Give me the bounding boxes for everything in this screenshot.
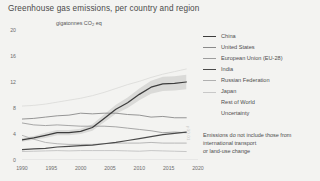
legend-item-label: India — [221, 67, 233, 73]
legend-item-rest-of-world[interactable]: Rest of World — [203, 98, 318, 109]
legend-item-china[interactable]: China — [203, 31, 318, 42]
legend-item-russian-federation[interactable]: Russian Federation — [203, 75, 318, 86]
legend: ChinaUnited StatesEuropean Union (EU-28)… — [203, 31, 318, 120]
legend-swatch-icon — [203, 58, 216, 59]
legend-item-label: Russian Federation — [221, 78, 270, 84]
y-axis-tick-8: 8 — [2, 105, 16, 111]
legend-swatch-icon — [203, 69, 216, 70]
x-axis-tick-2020: 2020 — [185, 165, 211, 171]
y-axis-tick-4: 4 — [2, 131, 16, 137]
x-axis-tick-1995: 1995 — [38, 165, 64, 171]
x-axis-tick-2000: 2000 — [68, 165, 94, 171]
legend-item-label: United States — [221, 45, 255, 51]
legend-swatch-icon — [203, 92, 216, 93]
y-axis-label-main: gigatonnes CO — [56, 20, 92, 26]
annotation-line: international transport — [203, 139, 319, 147]
chart-container: Greenhouse gas emissions, per country an… — [0, 0, 320, 181]
y-axis-tick-12: 12 — [2, 79, 16, 85]
legend-item-label: Rest of World — [221, 100, 255, 106]
legend-item-label: Uncertainty — [221, 111, 249, 117]
plot-area — [22, 30, 198, 160]
legend-swatch-icon — [203, 80, 216, 81]
legend-swatch-icon — [203, 47, 216, 48]
x-axis-tick-2005: 2005 — [97, 165, 123, 171]
legend-item-label: Japan — [221, 89, 236, 95]
x-axis-tick-2015: 2015 — [156, 165, 182, 171]
y-axis-tick-0: 0 — [2, 157, 16, 163]
annotation-line: or land-use change — [203, 147, 319, 155]
series-line-japan — [22, 151, 186, 152]
watermark-text: p30.01 — [186, 126, 191, 141]
legend-swatch-icon — [203, 36, 216, 37]
legend-item-india[interactable]: India — [203, 64, 318, 75]
legend-item-japan[interactable]: Japan — [203, 86, 318, 97]
legend-item-uncertainty[interactable]: Uncertainty — [203, 109, 318, 120]
plot-svg — [22, 30, 198, 160]
chart-title: Greenhouse gas emissions, per country an… — [8, 4, 199, 13]
x-axis-tick-1990: 1990 — [9, 165, 35, 171]
y-axis-label-subscript: 2 — [92, 22, 94, 27]
legend-item-united-states[interactable]: United States — [203, 42, 318, 53]
y-axis-label-tail: eq — [94, 20, 102, 26]
legend-item-label: China — [221, 34, 236, 40]
legend-item-european-union-eu-28[interactable]: European Union (EU-28) — [203, 53, 318, 64]
y-axis-tick-20: 20 — [2, 27, 16, 33]
y-axis-label: gigatonnes CO2 eq — [56, 20, 102, 26]
series-line-european-union-eu-28 — [22, 123, 186, 133]
annotation-line: Emissions do not include those from — [203, 131, 319, 139]
x-axis-tick-2010: 2010 — [126, 165, 152, 171]
y-axis-tick-16: 16 — [2, 53, 16, 59]
legend-item-label: European Union (EU-28) — [221, 56, 283, 62]
chart-annotation-note: Emissions do not include those frominter… — [203, 131, 319, 155]
